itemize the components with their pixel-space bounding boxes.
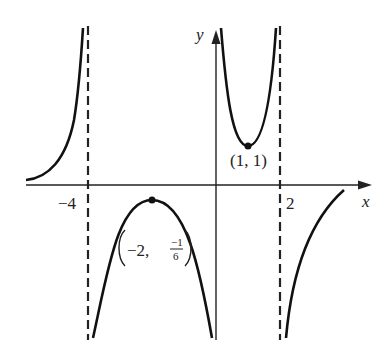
local-min-label: (1, 1) [230, 151, 267, 170]
fraction-denominator: 6 [173, 250, 179, 262]
function-graph: x y −4 2 (1, 1) −2, −1 6 [0, 0, 380, 350]
curve-branch-right [286, 190, 344, 338]
y-axis-arrow-icon [212, 30, 221, 44]
local-max-point [149, 197, 156, 204]
local-max-x-label: −2, [127, 241, 149, 260]
x-axis-label: x [361, 192, 370, 211]
y-axis-label: y [194, 25, 204, 44]
left-paren [119, 230, 125, 266]
curve-branch-left [26, 28, 83, 180]
curve-branch-middle-left [93, 200, 212, 338]
curve-branch-middle-right [221, 28, 276, 146]
tick-label-2: 2 [286, 194, 295, 213]
tick-label-neg4: −4 [58, 194, 77, 213]
fraction-numerator: −1 [171, 236, 183, 248]
local-max-label: −2, −1 6 [119, 230, 191, 266]
local-min-point [245, 143, 252, 150]
x-axis-arrow-icon [358, 181, 372, 190]
